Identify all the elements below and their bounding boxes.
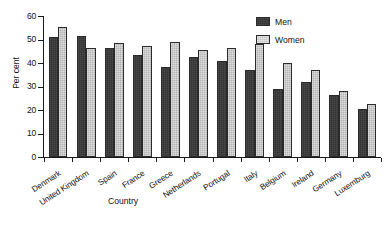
x-axis-tick [156,158,157,162]
legend-swatch-women [256,35,270,44]
x-axis-tick [353,158,354,162]
bar-men [245,70,254,157]
bar-men [133,55,142,157]
bar-group [49,16,68,157]
bar-women [198,50,207,157]
x-axis-tick [325,158,326,162]
bar-men [301,82,310,157]
x-axis-tick [381,158,382,162]
bar-women [86,48,95,157]
x-axis-tick [241,158,242,162]
bar-men [217,61,226,157]
x-axis-tick [269,158,270,162]
x-axis-title: Country [108,196,138,206]
bar-women [142,46,151,157]
bar-women [170,42,179,157]
bar-women [58,27,67,157]
x-axis-tick [184,158,185,162]
x-axis-tick [297,158,298,162]
bar-women [227,48,236,157]
bar-group [358,16,377,157]
bar-men [49,37,58,157]
bar-men [329,95,338,157]
bar-men [189,57,198,157]
y-axis-tick-label: 60 [6,12,36,21]
bar-men [358,109,367,157]
legend-label-men: Men [275,17,292,27]
bar-group [105,16,124,157]
x-axis-tick [100,158,101,162]
bar-chart: 0102030405060 Per cent DenmarkUnited Kin… [0,0,388,237]
bar-men [77,36,86,157]
bar-women [283,63,292,157]
x-axis-tick [72,158,73,162]
bar-group [217,16,236,157]
bar-men [105,48,114,157]
legend-swatch-men [256,17,270,26]
y-axis-tick-label: 0 [6,153,36,162]
bar-women [311,70,320,157]
bar-women [255,44,264,157]
bar-women [114,43,123,157]
bar-men [161,67,170,157]
legend-label-women: Women [275,35,304,45]
bar-group [133,16,152,157]
x-axis-tick [44,158,45,162]
legend-item-women: Women [256,32,334,47]
chart-legend: MenWomen [256,14,334,50]
x-axis-tick [213,158,214,162]
bar-group [189,16,208,157]
y-axis-tick-label: 10 [6,129,36,138]
bar-group [161,16,180,157]
legend-item-men: Men [256,14,334,29]
bar-women [367,104,376,157]
bar-men [273,89,282,157]
bar-women [339,91,348,157]
y-axis-title: Per cent [11,36,21,110]
x-axis-tick [128,158,129,162]
bar-group [77,16,96,157]
